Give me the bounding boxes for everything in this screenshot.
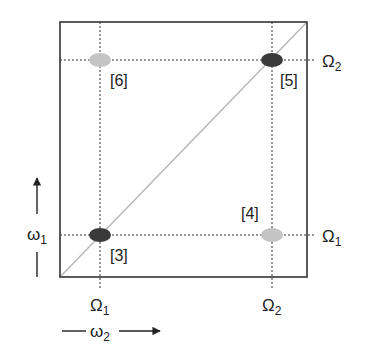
peak-5 [261,53,283,67]
x-tick-omega2: Ω2 [262,296,282,318]
peak-3 [89,228,111,242]
peak-6 [89,53,111,67]
y-tick-omega1: Ω1 [322,227,342,249]
peak-label-6: [6] [110,72,128,89]
y-tick-omega2: Ω2 [322,52,342,74]
peak-label-4: [4] [241,205,259,222]
y-axis-label: ω1 [27,225,47,247]
peak-4 [261,228,283,242]
peak-label-3: [3] [110,247,128,264]
x-tick-omega1: Ω1 [90,296,110,318]
x-axis-label: ω2 [90,322,110,344]
frequency-map-diagram: [6] [5] [3] [4] Ω2 Ω1 Ω1 Ω2 ω1 ω2 [0,0,367,362]
peak-label-5: [5] [280,72,298,89]
